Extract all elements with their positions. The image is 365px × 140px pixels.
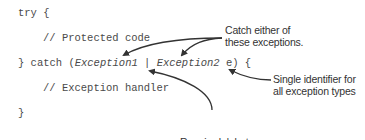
arrow-to-exception2 [182,38,222,55]
arrow-to-identifier-e [230,70,271,80]
arrow-to-pipe [150,71,212,110]
callout-arrows [0,0,365,140]
